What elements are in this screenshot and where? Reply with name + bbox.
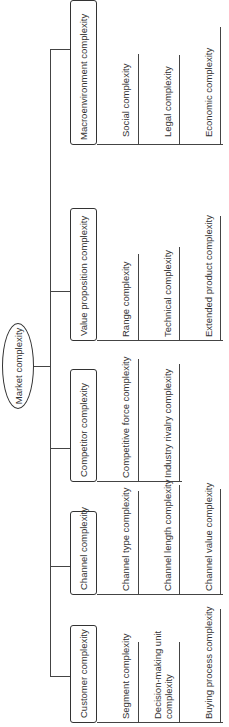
child-item: Social complexity [120,17,131,137]
child-connector [220,27,221,145]
category-connector [50,566,70,567]
child-item: Economic complexity [203,7,214,137]
category-competitor-complexity: Competitor complexity [70,369,97,482]
child-spine [97,722,223,723]
child-connector [138,254,139,341]
category-connector [50,676,70,677]
category-label: Competitor complexity [78,383,89,477]
child-connector [138,54,139,145]
root-label: Market complexity [13,328,24,405]
child-item: Extended product complexity [203,197,214,337]
category-value-proposition-complexity: Value proposition complexity [70,208,97,341]
child-connector [220,489,221,595]
child-item: Technical complexity [162,217,173,337]
child-connector [179,642,180,723]
child-item: Legal complexity [162,17,173,137]
child-item: Industry rivalry complexity [162,338,173,478]
category-connector [50,49,70,50]
category-label: Value proposition complexity [78,216,89,336]
category-macroenvironment-complexity: Macroenvironment complexity [70,0,97,145]
category-connector [50,448,70,449]
child-connector [220,216,221,341]
child-connector [138,491,139,595]
child-spine [97,481,182,482]
child-connector [179,364,180,482]
child-connector [179,55,180,145]
category-bus [50,49,51,677]
child-connector [138,359,139,482]
child-item: Channel value complexity [203,471,214,591]
category-label: Macroenvironment complexity [78,14,89,140]
child-item: Buying process complexity [203,599,214,719]
child-item: Decision-making unit complexity [152,623,174,719]
child-connector [138,642,139,723]
child-connector [220,609,221,723]
child-spine [97,594,223,595]
child-item: Range complexity [120,217,131,337]
category-customer-complexity: Customer complexity [70,625,97,723]
root-connector [34,366,50,367]
child-spine [97,144,223,145]
category-connector [50,291,70,292]
child-item: Channel type complexity [120,471,131,591]
child-connector [179,247,180,341]
category-channel-complexity: Channel complexity [70,511,97,595]
child-connector [179,485,180,595]
child-spine [97,340,223,341]
market-complexity-diagram: Market complexity Customer complexity Se… [0,0,229,727]
root-node: Market complexity [2,323,34,409]
child-item: Segment complexity [120,623,131,719]
child-item: Competitive force complexity [120,338,131,478]
category-label: Channel complexity [78,507,89,590]
category-label: Customer complexity [78,629,89,718]
